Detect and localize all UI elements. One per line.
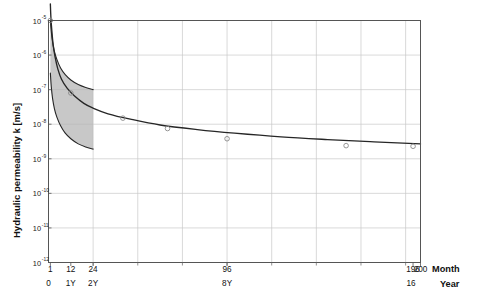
svg-text:10: 10 xyxy=(33,224,41,233)
svg-text:1: 1 xyxy=(48,265,53,274)
x-tick-year: 16 xyxy=(407,279,417,288)
svg-text:-12: -12 xyxy=(42,257,49,262)
x-tick-month: 200 xyxy=(414,263,428,275)
x-axis-title-year: Year xyxy=(440,279,460,289)
svg-text:200: 200 xyxy=(414,265,428,274)
x-tick-year: 1Y xyxy=(66,279,77,288)
svg-text:-8: -8 xyxy=(42,119,47,124)
x-tick-month: 1 xyxy=(48,263,53,275)
svg-text:10: 10 xyxy=(33,189,41,198)
chart-background xyxy=(0,0,481,300)
svg-text:-9: -9 xyxy=(42,154,47,159)
svg-text:10: 10 xyxy=(33,17,41,26)
svg-text:10: 10 xyxy=(33,259,41,268)
svg-text:-7: -7 xyxy=(42,84,47,89)
svg-text:10: 10 xyxy=(33,120,41,129)
svg-text:10: 10 xyxy=(33,155,41,164)
svg-text:-6: -6 xyxy=(42,50,47,55)
x-tick-year: 8Y xyxy=(222,279,233,288)
svg-text:12: 12 xyxy=(66,265,76,274)
hydraulic-permeability-chart: 10-510-610-710-810-910-1010-1110-12 1122… xyxy=(0,0,481,300)
svg-text:24: 24 xyxy=(89,265,99,274)
y-axis-title: Hydraulic permeability k [m/s] xyxy=(11,103,22,238)
x-tick-year: 2Y xyxy=(88,279,99,288)
x-tick-year: 0 xyxy=(46,279,51,288)
svg-text:-5: -5 xyxy=(42,15,47,20)
svg-text:96: 96 xyxy=(223,265,233,274)
x-axis-title-month: Month xyxy=(432,264,460,274)
y-axis-title-text: Hydraulic permeability k [m/s] xyxy=(11,103,22,238)
x-tick-month: 12 xyxy=(66,263,76,275)
svg-text:10: 10 xyxy=(33,86,41,95)
svg-text:10: 10 xyxy=(33,51,41,60)
chart-figure: 10-510-610-710-810-910-1010-1110-12 1122… xyxy=(0,0,481,300)
svg-text:-10: -10 xyxy=(42,188,49,193)
svg-text:-11: -11 xyxy=(42,223,49,228)
